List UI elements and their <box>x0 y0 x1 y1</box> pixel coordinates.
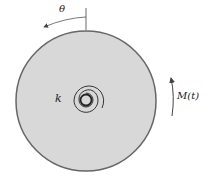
stiffness-label: k <box>55 92 62 105</box>
moment-arrow-icon <box>171 78 173 116</box>
moment-label: M(t) <box>177 90 199 101</box>
theta-arrow-icon <box>44 17 86 27</box>
disk <box>16 31 156 171</box>
theta-label: θ <box>59 3 65 14</box>
